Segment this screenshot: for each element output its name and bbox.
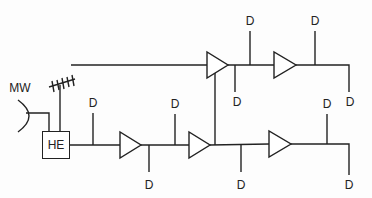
- drop-label-d4: D: [237, 179, 246, 191]
- amplifier-icon: [274, 52, 296, 78]
- cable-network-diagram: HE MW D D D D D D D D D D: [0, 0, 372, 198]
- trunk-line-4: [291, 144, 349, 175]
- amplifier-icon: [120, 132, 141, 158]
- drop-label-d5: D: [246, 15, 255, 27]
- headend-box: HE: [42, 131, 70, 159]
- amplifier-icon: [269, 131, 291, 157]
- drop-label-d1: D: [89, 97, 98, 109]
- drop-label-d7: D: [311, 15, 320, 27]
- drop-label-d9: D: [323, 98, 332, 110]
- drop-label-d2: D: [171, 98, 180, 110]
- microwave-dish-icon: [18, 100, 29, 132]
- microwave-label: MW: [9, 82, 30, 94]
- amplifier-icon: [207, 52, 228, 78]
- drop-label-d6: D: [233, 96, 242, 108]
- branch-line-2: [296, 65, 349, 92]
- amplifier-icon: [189, 132, 210, 158]
- drop-label-d8: D: [346, 96, 355, 108]
- antenna-icon: [49, 75, 75, 131]
- diagram-lines: [0, 0, 372, 198]
- drop-label-d10: D: [345, 179, 354, 191]
- trunk-line-3: [210, 144, 269, 145]
- drop-label-d3: D: [145, 179, 154, 191]
